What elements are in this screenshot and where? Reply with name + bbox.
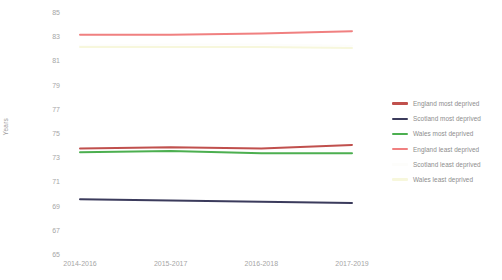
legend-item-scotland-least-deprived[interactable]: Scotland least deprived: [392, 157, 500, 172]
y-axis-tick-85: 85: [20, 9, 60, 17]
chart-legend: England most deprivedScotland most depri…: [392, 96, 500, 187]
legend-swatch-icon: [392, 148, 408, 150]
legend-swatch-icon: [392, 163, 408, 165]
legend-swatch-icon: [392, 102, 408, 104]
series-line-wales-most-deprived: [80, 151, 352, 153]
legend-label: Scotland most deprived: [413, 115, 481, 122]
legend-item-wales-least-deprived[interactable]: Wales least deprived: [392, 172, 500, 187]
series-lines: [62, 10, 380, 258]
y-axis-tick-83: 83: [20, 33, 60, 41]
y-axis-tick-77: 77: [20, 106, 60, 114]
series-line-england-least-deprived: [80, 31, 352, 35]
legend-label: England least deprived: [413, 146, 479, 153]
legend-label: Scotland least deprived: [413, 161, 481, 168]
y-axis-tick-65: 65: [20, 251, 60, 259]
x-axis-tick-2016-2018: 2016-2018: [221, 260, 301, 267]
x-axis-tick-2014-2016: 2014-2016: [40, 260, 120, 267]
plot-area: [62, 10, 380, 258]
series-line-scotland-least-deprived: [80, 44, 352, 45]
legend-item-scotland-most-deprived[interactable]: Scotland most deprived: [392, 111, 500, 126]
y-axis-tick-75: 75: [20, 130, 60, 138]
legend-swatch-icon: [392, 118, 408, 120]
legend-item-wales-most-deprived[interactable]: Wales most deprived: [392, 126, 500, 141]
line-chart: Years 8583817977757371696765 2014-201620…: [0, 0, 502, 280]
y-axis-tick-labels: 8583817977757371696765: [14, 0, 60, 280]
x-axis-tick-labels: 2014-20162015-20172016-20182017-2019: [62, 258, 380, 276]
y-axis-tick-71: 71: [20, 178, 60, 186]
legend-swatch-icon: [392, 178, 408, 180]
y-axis-tick-73: 73: [20, 154, 60, 162]
legend-label: Wales most deprived: [413, 130, 473, 137]
series-line-england-most-deprived: [80, 145, 352, 149]
series-line-scotland-most-deprived: [80, 199, 352, 203]
legend-swatch-icon: [392, 133, 408, 135]
legend-label: Wales least deprived: [413, 176, 473, 183]
y-axis-tick-81: 81: [20, 57, 60, 65]
series-line-wales-least-deprived: [80, 47, 352, 48]
y-axis-tick-69: 69: [20, 203, 60, 211]
x-axis-tick-2017-2019: 2017-2019: [312, 260, 392, 267]
y-axis-tick-79: 79: [20, 82, 60, 90]
x-axis-tick-2015-2017: 2015-2017: [131, 260, 211, 267]
legend-item-england-least-deprived[interactable]: England least deprived: [392, 142, 500, 157]
legend-label: England most deprived: [413, 100, 479, 107]
y-axis-tick-67: 67: [20, 227, 60, 235]
legend-item-england-most-deprived[interactable]: England most deprived: [392, 96, 500, 111]
